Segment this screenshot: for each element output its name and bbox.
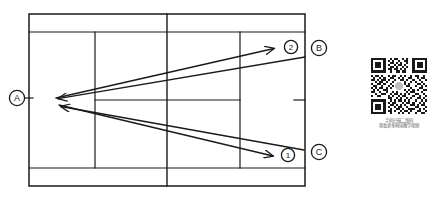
marker-label-b: B [316, 43, 322, 53]
position-marker-a: A [9, 90, 24, 105]
qr-caption-line-2: 观看更多网球教学视频 [379, 123, 420, 128]
shot-label-1: 1 [286, 151, 291, 160]
arrow-return-from-c [61, 107, 304, 151]
screenshot-root: A B C 2 1 [0, 0, 440, 204]
marker-label-a: A [14, 93, 20, 103]
court-lines [24, 14, 305, 186]
shot-label-2: 2 [289, 43, 294, 52]
shot-arrows [56, 49, 305, 157]
shot-marker-2: 2 [284, 40, 297, 53]
marker-label-c: C [316, 147, 323, 157]
arrow-shot-to-corner-1 [59, 105, 273, 156]
arrow-shot-to-corner-2 [56, 49, 274, 99]
position-marker-b: B [311, 40, 326, 55]
position-marker-c: C [311, 144, 326, 159]
shot-marker-1: 1 [281, 148, 294, 161]
qr-code-image[interactable] [369, 56, 429, 116]
qr-caption: 手机扫描二维码 观看更多网球教学视频 [379, 118, 420, 128]
qr-code-panel[interactable]: 手机扫描二维码 观看更多网球教学视频 [362, 54, 436, 138]
